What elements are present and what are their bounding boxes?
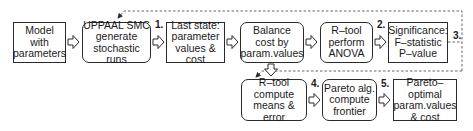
arrow-model-uppaal: [68, 36, 79, 49]
arrow-anova-significance: [375, 36, 386, 49]
arrow-pareto-optimal: [379, 94, 390, 107]
arrow-balance-anova: [306, 36, 317, 49]
node-pareto-alg: Pareto alg. compute frontier: [322, 79, 377, 121]
node-means-error: R–tool compute means & error: [241, 79, 307, 121]
step-label-2: 2.: [377, 19, 385, 30]
node-uppaal-smc: UPPAAL SMC generate stochastic runs: [82, 22, 151, 63]
node-balance: Balance cost by param.values: [240, 22, 304, 63]
node-last-state: Last state: parameter values & cost: [166, 22, 225, 63]
arrow-last-balance: [227, 36, 238, 49]
step-label-4: 4.: [311, 78, 319, 89]
arrow-uppaal-last: [153, 36, 164, 49]
arrow-means-pareto: [309, 94, 320, 107]
step-label-5: 5.: [381, 78, 389, 89]
node-pareto-optimal: Pareto–optimal param.values & cost: [393, 79, 457, 121]
node-anova: R–tool perform ANOVA: [320, 22, 373, 63]
node-model: Model with parameters: [13, 22, 66, 63]
arrow-balance-means: [265, 64, 278, 76]
step-label-3: 3.: [453, 30, 461, 41]
step-label-1: 1.: [155, 19, 163, 30]
node-significance: Significance: F–statistic P–value: [388, 22, 448, 63]
